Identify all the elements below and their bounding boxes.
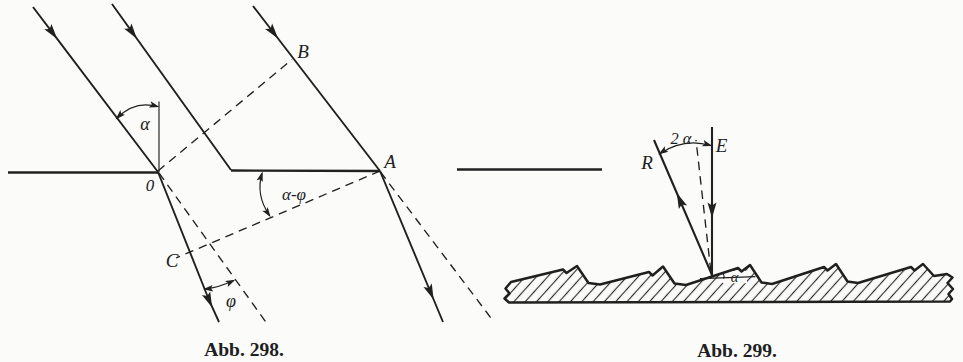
alpha-angle-arc — [117, 105, 158, 118]
alpha-label: α — [140, 114, 150, 134]
incident-ray-1 — [33, 7, 158, 172]
blaze-alpha-label: α — [731, 269, 739, 285]
figure-299-echelette-diagram: 2 α E R α Abb. 299. — [505, 127, 954, 361]
point-A-label: A — [382, 151, 396, 172]
undeviated-direction-A-dashed — [381, 172, 495, 322]
figure-298-echelon-diagram: α 0 B A C α-φ φ Abb. 298. — [8, 4, 494, 360]
bisector-dashed — [696, 140, 711, 271]
diffracted-ray-from-A — [380, 171, 443, 322]
phi-label: φ — [226, 291, 236, 311]
alpha-minus-phi-label: α-φ — [282, 185, 306, 204]
two-alpha-label: 2 α — [670, 129, 691, 148]
grating-surface-right — [231, 171, 380, 172]
incident-ray-2 — [112, 4, 231, 170]
scanned-textbook-figures: α 0 B A C α-φ φ Abb. 298. 2 α E R α Abb.… — [0, 0, 963, 362]
incident-ray-3 — [253, 6, 380, 171]
point-C-label: C — [166, 250, 179, 271]
undeviated-direction-O-dashed — [159, 173, 268, 325]
figure-299-caption: Abb. 299. — [697, 340, 777, 361]
alpha-minus-phi-angle-arc — [260, 174, 270, 216]
ray-R-label: R — [640, 152, 653, 173]
figure-298-caption: Abb. 298. — [204, 339, 284, 360]
diffracted-ray-from-O — [158, 172, 219, 322]
phi-angle-arrow — [205, 281, 234, 290]
wavefront-OB-dashed — [158, 60, 292, 172]
ray-E-label: E — [715, 135, 728, 156]
figures-canvas: α 0 B A C α-φ φ Abb. 298. 2 α E R α Abb.… — [0, 0, 963, 362]
point-O-label: 0 — [146, 176, 155, 195]
point-B-label: B — [297, 41, 309, 62]
wavefront-AC-dashed — [176, 171, 380, 258]
